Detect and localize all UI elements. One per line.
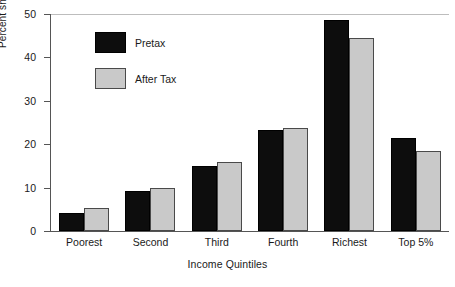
x-tick-label: Fourth	[268, 236, 298, 248]
bar-pretax	[258, 130, 283, 231]
x-tick-label: Poorest	[66, 236, 102, 248]
x-axis-line	[50, 231, 449, 232]
y-tick-label: 50	[24, 9, 36, 19]
bar-pretax	[59, 213, 84, 231]
y-tick-label: 30	[24, 96, 36, 106]
y-tick-label: 40	[24, 52, 36, 62]
x-tick-label: Top 5%	[398, 236, 433, 248]
legend-label-after-tax: After Tax	[135, 73, 176, 85]
bar-pretax	[391, 138, 416, 231]
bar-after-tax	[416, 151, 441, 231]
bar-chart: 01020304050 Percent share of aggregate i…	[0, 0, 455, 287]
bar-after-tax	[349, 38, 374, 231]
y-tick-mark	[44, 188, 50, 189]
y-tick-label: 0	[30, 226, 36, 236]
chart-legend: Pretax After Tax	[95, 32, 215, 104]
bar-pretax	[192, 166, 217, 231]
bar-group	[383, 14, 449, 231]
legend-label-pretax: Pretax	[135, 37, 165, 49]
x-axis-title: Income Quintiles	[0, 258, 455, 270]
x-tick-label: Third	[205, 236, 229, 248]
bar-after-tax	[150, 188, 175, 231]
bar-pretax	[324, 20, 349, 231]
bar-pretax	[125, 191, 150, 231]
y-tick-mark	[44, 231, 50, 232]
x-axis-category-labels: PoorestSecondThirdFourthRichestTop 5%	[51, 236, 449, 252]
bar-after-tax	[217, 162, 242, 231]
bar-group	[316, 14, 382, 231]
legend-item-after-tax: After Tax	[95, 68, 215, 94]
bar-group	[250, 14, 316, 231]
y-tick-mark	[44, 14, 50, 15]
x-tick-label: Richest	[332, 236, 367, 248]
x-tick-label: Second	[133, 236, 169, 248]
y-tick-label: 20	[24, 139, 36, 149]
y-tick-mark	[44, 57, 50, 58]
legend-swatch-pretax-icon	[95, 32, 126, 53]
bar-after-tax	[283, 128, 308, 231]
y-axis-title: Percent share of aggregate income	[0, 0, 8, 48]
y-tick-mark	[44, 144, 50, 145]
y-tick-mark	[44, 101, 50, 102]
y-tick-label: 10	[24, 183, 36, 193]
legend-swatch-after-tax-icon	[95, 68, 126, 89]
bar-after-tax	[84, 208, 109, 231]
legend-item-pretax: Pretax	[95, 32, 215, 58]
